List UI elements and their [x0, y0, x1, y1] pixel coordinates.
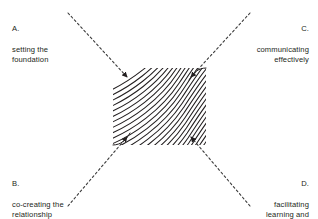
dashed-connectors	[68, 13, 250, 206]
label-a-text: setting the foundation	[12, 45, 48, 65]
connector-a-line	[68, 13, 127, 77]
diagram-canvas: A. setting the foundation C. communicati…	[0, 0, 318, 219]
core-flow-lines	[107, 9, 220, 219]
connector-d-line	[191, 137, 250, 206]
label-d: D. facilitating learning and results	[266, 169, 309, 219]
connector-b-line	[68, 137, 127, 206]
label-a-letter: A.	[12, 24, 48, 34]
label-d-letter: D.	[266, 179, 309, 189]
label-c: C. communicating effectively	[257, 14, 309, 75]
label-b: B. co-creating the relationship	[12, 169, 64, 219]
label-b-text: co-creating the relationship	[12, 200, 64, 219]
label-c-letter: C.	[257, 24, 309, 34]
label-a: A. setting the foundation	[12, 14, 48, 75]
label-c-text: communicating effectively	[257, 45, 309, 65]
label-d-text: facilitating learning and results	[266, 200, 309, 219]
connector-c-line	[191, 13, 250, 77]
label-b-letter: B.	[12, 179, 64, 189]
